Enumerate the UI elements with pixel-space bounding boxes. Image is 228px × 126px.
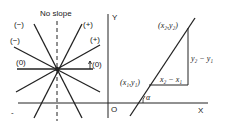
zero-left-label: (0) — [16, 58, 26, 67]
slope-line — [130, 18, 195, 116]
neg-shallow-label: (−) — [10, 36, 20, 45]
center-point — [55, 67, 59, 71]
rise-label: y₂ − y₁ — [190, 54, 213, 63]
zero-right-label: (0) — [92, 60, 102, 69]
angle-label: α — [146, 93, 151, 102]
origin-label: O — [111, 105, 117, 114]
point2-label: (x₂,y₂) — [158, 21, 178, 30]
y-axis-label: Y — [112, 13, 118, 22]
pos-steep-label: (+) — [83, 20, 93, 29]
slope-diagram: No slope (−) (−) (+) (+) (0) (0) - Y X O… — [0, 0, 228, 126]
no-slope-label: No slope — [40, 9, 72, 18]
pos-shallow-label: (+) — [90, 35, 100, 44]
point1-label: (x₁,y₁) — [120, 78, 140, 87]
x-axis-label: X — [198, 106, 204, 115]
stray-dot: - — [11, 108, 14, 117]
run-label: x₂ − x₁ — [159, 75, 182, 84]
neg-steep-label: (−) — [14, 20, 24, 29]
